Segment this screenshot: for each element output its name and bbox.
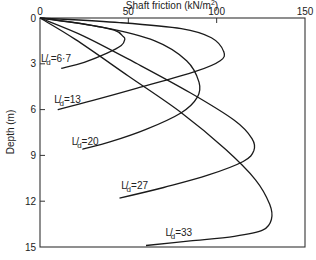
- curves-group: [40, 18, 272, 246]
- x-tick-label: 100: [208, 6, 225, 17]
- x-tick-label: 50: [123, 6, 135, 17]
- curve-label: L/d=20: [72, 136, 99, 150]
- x-tick-label: 150: [297, 6, 314, 17]
- curve-ld-3: [40, 18, 255, 198]
- y-axis-ticks: 03691215: [25, 13, 45, 253]
- plot-frame: [40, 18, 305, 247]
- y-tick-label: 12: [25, 196, 37, 207]
- y-tick-label: 0: [30, 13, 36, 24]
- y-axis-title: Depth (m): [5, 110, 16, 154]
- curve-label: L/d=6·7: [41, 53, 72, 67]
- y-tick-label: 15: [25, 242, 37, 253]
- y-tick-label: 9: [30, 150, 36, 161]
- curve-ld-2: [40, 18, 200, 149]
- curve-ld-4: [40, 18, 272, 246]
- x-tick-label: 0: [37, 6, 43, 17]
- y-tick-label: 3: [30, 58, 36, 69]
- y-tick-label: 6: [30, 104, 36, 115]
- x-axis-title: Shaft friction (kN/m2): [126, 0, 218, 11]
- shaft-friction-depth-chart: Shaft friction (kN/m2) Depth (m) 0501001…: [0, 0, 316, 260]
- curve-label: L/d=33: [165, 227, 192, 241]
